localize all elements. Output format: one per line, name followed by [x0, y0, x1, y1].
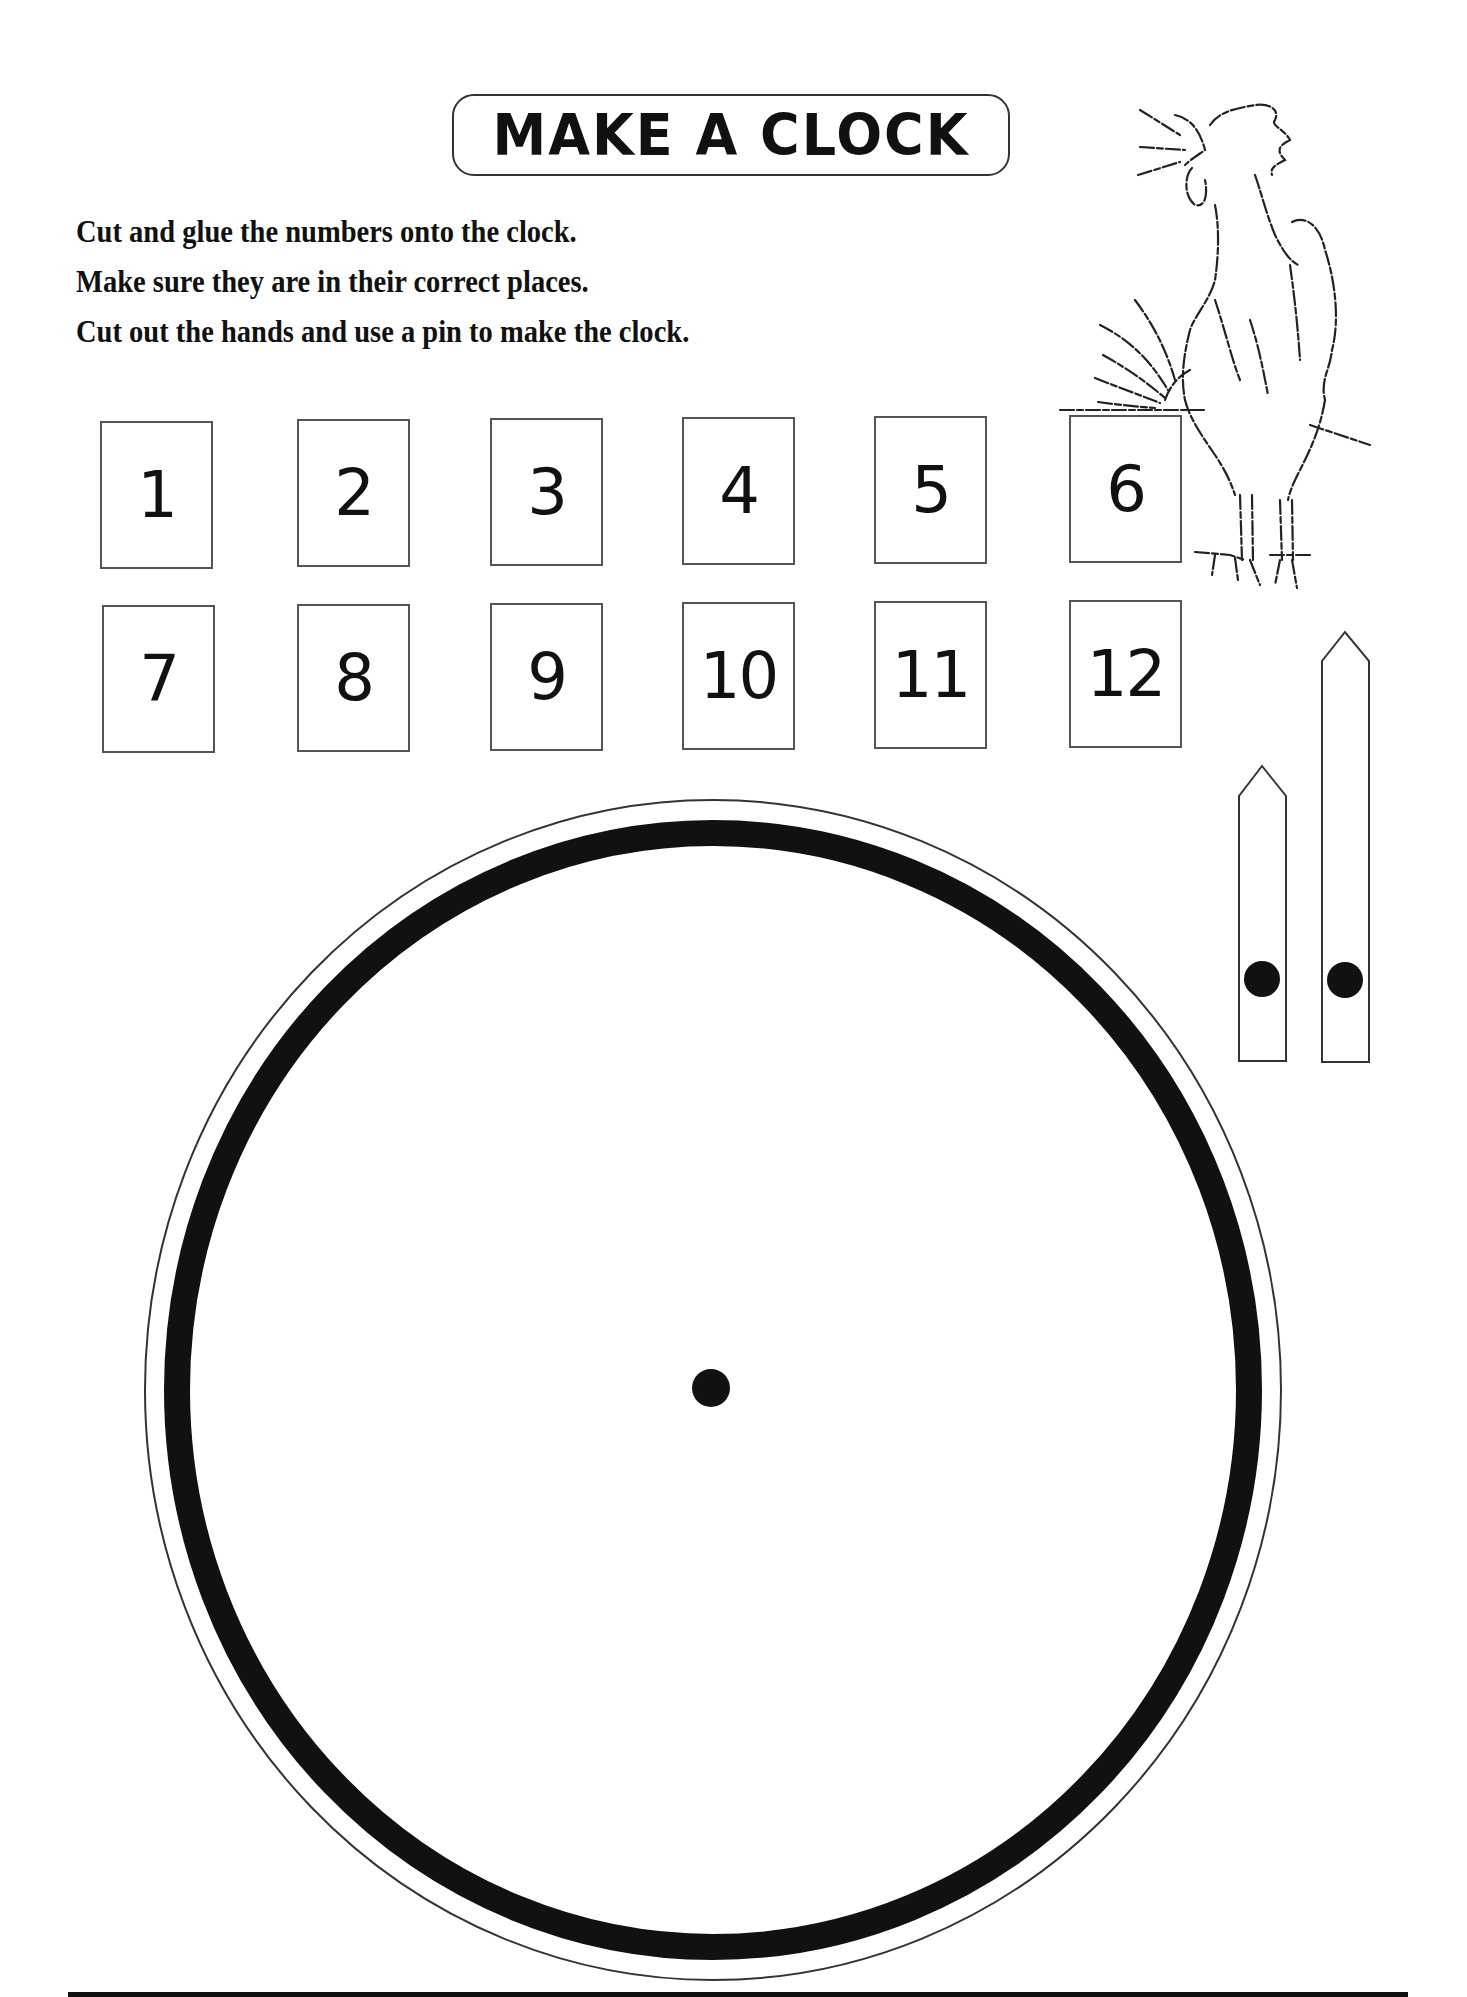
hour-hand[interactable] [1239, 766, 1286, 1061]
bottom-rule-divider [68, 1992, 1408, 1997]
clock-center-pin-icon[interactable] [692, 1369, 730, 1407]
minute-hand[interactable] [1322, 632, 1369, 1062]
minute-hand-pin-hole-icon [1327, 962, 1363, 998]
hour-hand-pin-hole-icon [1244, 961, 1280, 997]
clock-graphics [0, 0, 1467, 1997]
